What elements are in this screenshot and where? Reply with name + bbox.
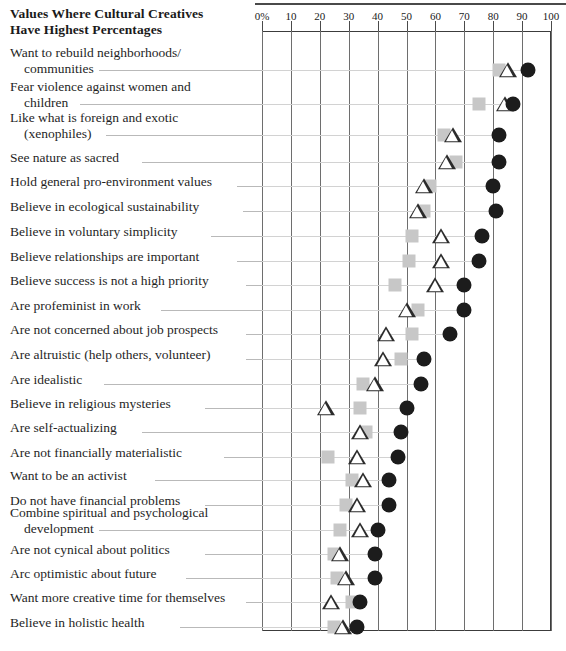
x-axis-tick-mark [262, 21, 263, 31]
category-label: Believe relationships are important [10, 249, 199, 265]
category-label: Are idealistic [10, 372, 82, 388]
open-triangle-marker [366, 376, 384, 391]
x-axis-tick-mark [378, 21, 379, 31]
open-triangle-marker [351, 522, 369, 537]
leader-line [99, 70, 262, 71]
plot-area [262, 31, 551, 631]
gray-square-marker [472, 98, 485, 111]
gray-square-marker [322, 451, 335, 464]
black-circle-marker [506, 97, 521, 112]
gray-square-marker [406, 328, 419, 341]
category-label: Are not cynical about politics [10, 542, 170, 558]
category-label: Hold general pro-environment values [10, 174, 212, 190]
leader-line [205, 408, 262, 409]
x-gridline [435, 31, 436, 631]
leader-line [246, 359, 262, 360]
row-connector-line [262, 432, 401, 433]
category-label: Are profeminist in work [10, 298, 141, 314]
category-label-line-1: Want to be an activist [10, 468, 127, 483]
row-connector-line [262, 334, 450, 335]
row-connector-line [262, 384, 421, 385]
leader-line [237, 186, 263, 187]
category-label-line-1: Hold general pro-environment values [10, 174, 212, 189]
x-gridline [493, 31, 494, 631]
black-circle-marker [491, 128, 506, 143]
black-circle-marker [382, 473, 397, 488]
leader-line [186, 578, 262, 579]
category-label-line-1: Want more creative time for themselves [10, 590, 225, 605]
category-label-line-1: Arc optimistic about future [10, 566, 157, 581]
x-gridline [262, 31, 263, 631]
category-label-line-2: communities [10, 61, 181, 77]
category-label-line-1: Believe relationships are important [10, 249, 199, 264]
category-label: Are altruistic (help others, volunteer) [10, 347, 211, 363]
x-gridline [522, 31, 523, 631]
category-label-line-1: Believe in holistic health [10, 615, 145, 630]
category-label-line-1: Want to rebuild neighborhoods/ [10, 45, 181, 60]
gray-square-marker [388, 279, 401, 292]
leader-line [224, 457, 262, 458]
leader-line [99, 530, 262, 531]
category-label-line-2: development [10, 521, 208, 537]
x-gridline [464, 31, 465, 631]
category-label-line-1: Believe in ecological sustainability [10, 199, 199, 214]
category-label: Are not concerned about job prospects [10, 322, 218, 338]
x-axis-tick-mark [435, 21, 436, 31]
row-connector-line [262, 70, 528, 71]
row-connector-line [262, 310, 464, 311]
black-circle-marker [457, 303, 472, 318]
black-circle-marker [416, 352, 431, 367]
x-gridline [320, 31, 321, 631]
category-label: Believe in voluntary simplicity [10, 224, 178, 240]
open-triangle-marker [432, 228, 450, 243]
leader-line [155, 480, 262, 481]
category-label-line-1: Like what is foreign and exotic [10, 110, 178, 125]
black-circle-marker [489, 204, 504, 219]
open-triangle-marker [377, 326, 395, 341]
x-gridline [551, 31, 552, 631]
category-label: Like what is foreign and exotic(xenophil… [10, 110, 178, 141]
leader-line [211, 236, 262, 237]
category-label: Believe in holistic health [10, 615, 145, 631]
category-label-line-1: Fear violence against women and [10, 79, 191, 94]
leader-line [80, 104, 262, 105]
x-axis-tick-mark [464, 21, 465, 31]
open-triangle-marker [409, 203, 427, 218]
black-circle-marker [442, 327, 457, 342]
open-triangle-marker [348, 497, 366, 512]
black-circle-marker [520, 63, 535, 78]
category-label: Arc optimistic about future [10, 566, 157, 582]
category-label-line-1: Believe in voluntary simplicity [10, 224, 178, 239]
category-label: Want more creative time for themselves [10, 590, 225, 606]
row-connector-line [262, 186, 493, 187]
open-triangle-marker [354, 472, 372, 487]
category-label: Fear violence against women andchildren [10, 79, 191, 110]
gray-square-marker [403, 255, 416, 268]
leader-line [205, 554, 262, 555]
open-triangle-marker [444, 127, 462, 142]
category-label-line-1: Are idealistic [10, 372, 82, 387]
x-axis-tick-mark [291, 21, 292, 31]
black-circle-marker [486, 179, 501, 194]
x-axis-tick-mark [493, 21, 494, 31]
category-label-line-1: See nature as sacred [10, 150, 119, 165]
gray-square-marker [354, 402, 367, 415]
leader-line [205, 505, 262, 506]
category-label-line-2: children [10, 95, 191, 111]
gray-square-marker [406, 230, 419, 243]
category-label: Believe in ecological sustainability [10, 199, 199, 215]
black-circle-marker [474, 229, 489, 244]
black-circle-marker [393, 425, 408, 440]
x-axis-tick-mark [407, 21, 408, 31]
leader-line [237, 261, 263, 262]
open-triangle-marker [331, 546, 349, 561]
category-label: Are self-actualizing [10, 420, 117, 436]
leader-line [104, 384, 262, 385]
row-connector-line [262, 211, 496, 212]
x-gridline [349, 31, 350, 631]
black-circle-marker [350, 620, 365, 635]
x-axis-tick-labels: 0%102030405060708090100 [0, 10, 566, 26]
leader-line [246, 334, 262, 335]
leader-line [243, 211, 262, 212]
open-triangle-marker [374, 351, 392, 366]
